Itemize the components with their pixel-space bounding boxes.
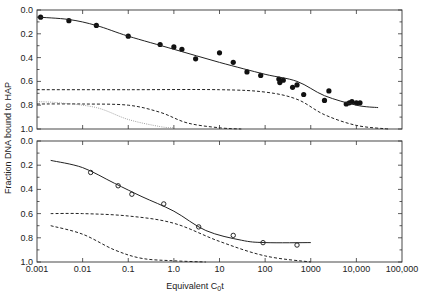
x-tick-label: 0.01: [74, 264, 92, 274]
bottom-panel: 0.00.20.40.60.81.00.0010.010.11.01010010…: [20, 136, 418, 274]
plot-frame: [37, 141, 402, 262]
data-point: [193, 56, 198, 61]
data-point: [322, 98, 327, 103]
y-tick-label: 0.8: [20, 100, 33, 110]
x-axis-title: Equivalent C0t: [166, 281, 224, 292]
data-point: [231, 60, 236, 65]
curve-dashed: [37, 90, 388, 129]
figure: 0.00.20.40.60.81.0 0.00.20.40.60.81.00.0…: [0, 0, 430, 296]
y-tick-label: 0.2: [20, 160, 33, 170]
y-tick-label: 0.0: [20, 136, 33, 146]
data-point: [357, 100, 362, 105]
curve-dashed: [51, 226, 206, 262]
top-panel: 0.00.20.40.60.81.0: [20, 5, 402, 134]
x-tick-label: 1.0: [168, 264, 181, 274]
data-point: [326, 88, 331, 93]
y-axis-title: Fraction DNA bound to HAP: [3, 82, 13, 194]
y-tick-label: 0.0: [20, 5, 33, 15]
y-tick-label: 0.2: [20, 29, 33, 39]
x-tick-label: 0.001: [26, 264, 49, 274]
data-point-open: [295, 243, 299, 247]
data-point-open: [231, 233, 235, 237]
curve-dashed: [37, 104, 241, 129]
x-tick-label: 10: [214, 264, 224, 274]
curve-solid: [37, 17, 378, 108]
x-tick-label: 0.1: [122, 264, 135, 274]
x-tick-label: 1000: [301, 264, 321, 274]
data-point: [217, 50, 222, 55]
y-tick-label: 0.6: [20, 209, 33, 219]
y-tick-label: 0.4: [20, 53, 33, 63]
x-tick-label: 100,000: [386, 264, 419, 274]
data-point: [301, 92, 306, 97]
y-tick-label: 0.8: [20, 233, 33, 243]
y-tick-label: 0.6: [20, 76, 33, 86]
plot-frame: [37, 10, 402, 129]
x-tick-label: 100: [258, 264, 273, 274]
y-tick-label: 1.0: [20, 124, 33, 134]
data-point: [290, 85, 295, 90]
data-point: [294, 82, 299, 87]
curve-dotted: [37, 102, 174, 128]
y-tick-label: 0.4: [20, 184, 33, 194]
x-tick-label: 10,000: [343, 264, 371, 274]
